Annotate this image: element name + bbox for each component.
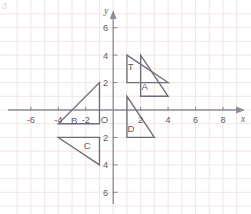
y-tick-label: 2	[103, 133, 108, 143]
coordinate-plane: -6-4-22468642246OxyTABCD	[0, 0, 251, 214]
origin-label: O	[101, 114, 108, 125]
y-tick-label: 2	[103, 78, 108, 88]
y-tick-label: 4	[103, 160, 108, 170]
y-tick-label: 4	[103, 51, 108, 61]
y-axis-label: y	[103, 6, 109, 16]
x-tick-label: -6	[27, 115, 35, 125]
x-tick-label: 8	[220, 115, 225, 125]
labels: -6-4-22468642246OxyTABCD	[27, 6, 246, 198]
grid-lines	[0, 0, 251, 214]
y-tick-label: 6	[103, 23, 108, 33]
triangle-b	[58, 83, 99, 124]
x-tick-label: 4	[166, 115, 171, 125]
x-axis-label: x	[240, 114, 246, 124]
triangle-label-a: A	[142, 81, 149, 92]
triangle-label-d: D	[128, 123, 135, 134]
triangle-label-b: B	[71, 115, 77, 126]
y-tick-label: 6	[103, 188, 108, 198]
x-tick-label: -2	[82, 115, 90, 125]
triangle-label-c: C	[84, 140, 91, 151]
triangle-label-t: T	[128, 61, 134, 72]
coordinate-grid-figure: 3 -6-4-22468642246OxyTABCD	[0, 0, 251, 214]
y-axis-arrowhead	[110, 10, 117, 19]
x-tick-label: 6	[193, 115, 198, 125]
x-tick-label: 2	[138, 115, 143, 125]
x-axis-arrowhead	[236, 107, 245, 114]
x-tick-label: -4	[54, 115, 62, 125]
